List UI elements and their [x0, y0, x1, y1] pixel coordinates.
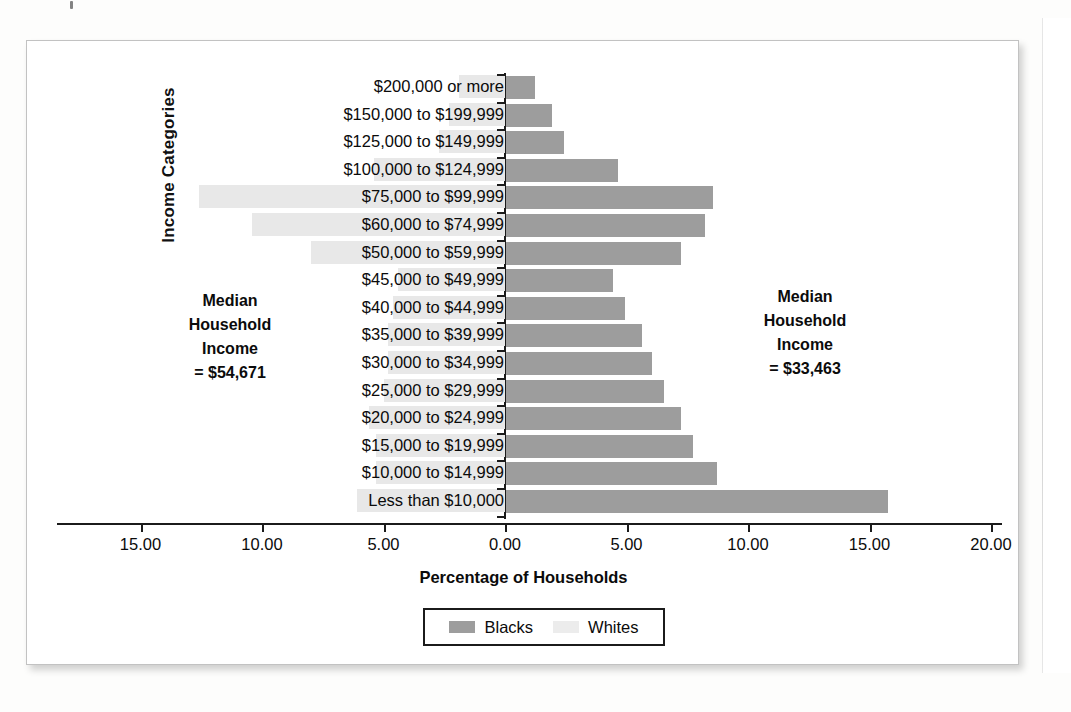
bar-blacks: [506, 461, 717, 485]
chart-row: $200,000 or more: [57, 74, 1002, 99]
chart-row: $10,000 to $14,999: [57, 460, 1002, 485]
bar-blacks: [506, 241, 681, 265]
y-axis-tick: [497, 184, 506, 186]
y-axis-tick: [497, 129, 506, 131]
y-axis-tick: [497, 488, 506, 490]
x-axis-tick-label: 5.00: [587, 535, 667, 554]
bar-blacks: [506, 213, 705, 237]
legend-swatch-whites-icon: [553, 621, 579, 633]
chart-row: $75,000 to $99,999: [57, 184, 1002, 209]
y-axis-tick: [497, 74, 506, 76]
bar-blacks: [506, 351, 652, 375]
category-label: $125,000 to $149,999: [84, 131, 504, 152]
scanned-page-background: Income Categories $200,000 or more$150,0…: [0, 0, 1071, 712]
annotation-line: Household: [145, 313, 315, 337]
x-axis-tick: [748, 523, 750, 532]
y-axis-tick: [497, 405, 506, 407]
bar-blacks: [506, 130, 564, 154]
bar-blacks: [506, 75, 535, 99]
x-axis-tick: [384, 523, 386, 532]
bar-blacks: [506, 268, 613, 292]
bar-blacks: [506, 296, 625, 320]
y-axis-tick: [497, 433, 506, 435]
category-label: $10,000 to $14,999: [84, 462, 504, 483]
category-label: $60,000 to $74,999: [84, 214, 504, 235]
legend-label-blacks: Blacks: [484, 618, 533, 637]
legend-label-whites: Whites: [588, 618, 638, 637]
x-axis-tick-label: 15.00: [101, 535, 181, 554]
y-axis-tick: [497, 322, 506, 324]
x-axis-tick-label: 5.00: [344, 535, 424, 554]
chart-row: $20,000 to $24,999: [57, 405, 1002, 430]
legend-swatch-blacks-icon: [449, 621, 475, 633]
category-label: $15,000 to $19,999: [84, 435, 504, 456]
x-axis-tick-label: 15.00: [830, 535, 910, 554]
category-label: Less than $10,000: [84, 490, 504, 511]
annotation-line: Median: [717, 285, 893, 309]
bar-blacks: [506, 406, 681, 430]
y-axis-tick: [497, 212, 506, 214]
bar-blacks: [506, 489, 888, 513]
y-axis-tick: [497, 267, 506, 269]
x-axis-tick-label: 10.00: [222, 535, 302, 554]
x-axis-tick-label: 20.00: [951, 535, 1031, 554]
y-axis-tick: [497, 102, 506, 104]
x-axis-title: Percentage of Households: [27, 568, 1020, 587]
y-axis-tick: [497, 240, 506, 242]
y-axis-tick: [497, 157, 506, 159]
annotation-line: Household: [717, 309, 893, 333]
chart-legend: Blacks Whites: [423, 608, 665, 646]
x-axis-tick: [141, 523, 143, 532]
annotation-line: Median: [145, 289, 315, 313]
y-axis-tick: [497, 295, 506, 297]
category-label: $75,000 to $99,999: [84, 186, 504, 207]
legend-item-whites: Whites: [553, 618, 638, 637]
bar-blacks: [506, 323, 642, 347]
bar-blacks: [506, 158, 618, 182]
chart-row: $50,000 to $59,999: [57, 240, 1002, 265]
annotation-whites-median: MedianHouseholdIncome= $54,671: [145, 289, 315, 385]
bar-blacks: [506, 103, 552, 127]
category-label: $45,000 to $49,999: [84, 269, 504, 290]
chart-row: $15,000 to $19,999: [57, 433, 1002, 458]
annotation-line: = $33,463: [717, 357, 893, 381]
scan-speck-artifact: [70, 1, 73, 9]
chart-row: Less than $10,000: [57, 488, 1002, 513]
category-label: $100,000 to $124,999: [84, 159, 504, 180]
bar-blacks: [506, 434, 693, 458]
x-axis-tick: [262, 523, 264, 532]
y-axis-tick: [497, 460, 506, 462]
legend-item-blacks: Blacks: [449, 618, 533, 637]
y-axis-tick: [497, 378, 506, 380]
y-axis-tick: [497, 516, 506, 518]
x-axis-tick: [627, 523, 629, 532]
category-label: $150,000 to $199,999: [84, 104, 504, 125]
bar-blacks: [506, 185, 713, 209]
category-label: $20,000 to $24,999: [84, 407, 504, 428]
annotation-line: = $54,671: [145, 361, 315, 385]
annotation-blacks-median: MedianHouseholdIncome= $33,463: [717, 285, 893, 381]
bar-blacks: [506, 379, 664, 403]
chart-row: $100,000 to $124,999: [57, 157, 1002, 182]
x-axis-tick: [870, 523, 872, 532]
page-edge-strip: [1042, 18, 1071, 673]
x-axis-tick-label: 0.00: [465, 535, 545, 554]
category-label: $200,000 or more: [84, 76, 504, 97]
annotation-line: Income: [717, 333, 893, 357]
y-axis-tick: [497, 350, 506, 352]
x-axis-line: [57, 523, 1002, 525]
x-axis-tick-label: 10.00: [708, 535, 788, 554]
chart-frame: Income Categories $200,000 or more$150,0…: [26, 40, 1019, 665]
x-axis-tick: [991, 523, 993, 532]
chart-row: $125,000 to $149,999: [57, 129, 1002, 154]
category-label: $50,000 to $59,999: [84, 242, 504, 263]
chart-row: $150,000 to $199,999: [57, 102, 1002, 127]
chart-row: $60,000 to $74,999: [57, 212, 1002, 237]
x-axis-tick: [505, 523, 507, 532]
annotation-line: Income: [145, 337, 315, 361]
